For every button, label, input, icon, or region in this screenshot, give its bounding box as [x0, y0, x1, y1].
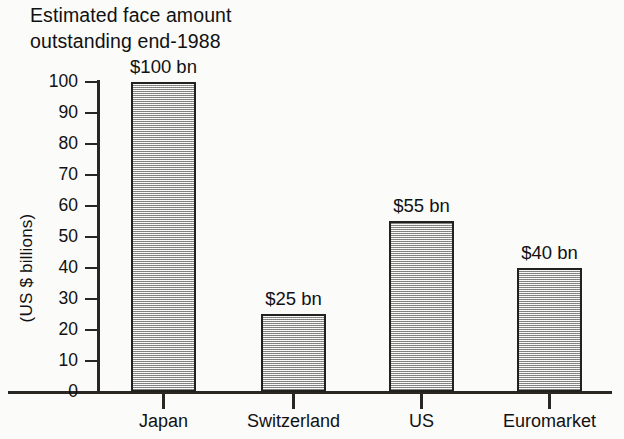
y-tick-mark — [85, 112, 98, 114]
plot-area: 0102030405060708090100 JapanSwitzerlandU… — [0, 0, 624, 439]
y-tick-label: 100 — [18, 73, 78, 91]
y-tick-label-text: 90 — [18, 104, 78, 122]
y-tick-label-text: 100 — [18, 73, 78, 91]
bar-chart: Estimated face amount outstanding end-19… — [0, 0, 624, 439]
y-tick-mark — [85, 360, 98, 362]
bar-japan — [131, 82, 196, 392]
y-tick-mark — [85, 236, 98, 238]
bar-value-label-switzerland: $25 bn — [234, 289, 354, 309]
y-tick-mark — [85, 205, 98, 207]
y-tick-label: 20 — [18, 321, 78, 339]
y-tick-label: 50 — [18, 228, 78, 246]
y-tick-label: 70 — [18, 166, 78, 184]
x-tick-mark — [548, 393, 551, 409]
y-tick-label: 30 — [18, 290, 78, 308]
y-tick-mark — [85, 81, 98, 83]
y-tick-label-text: 20 — [18, 321, 78, 339]
y-tick-label: 40 — [18, 259, 78, 277]
y-tick-label: 60 — [18, 197, 78, 215]
bar-euromarket — [517, 268, 582, 392]
y-tick-mark — [85, 174, 98, 176]
y-tick-mark — [85, 298, 98, 300]
y-tick-mark — [85, 391, 98, 393]
y-tick-label-text: 70 — [18, 166, 78, 184]
bar-value-label-japan: $100 bn — [104, 57, 224, 77]
y-tick-mark — [85, 329, 98, 331]
x-tick-label-euromarket: Euromarket — [470, 411, 624, 431]
bar-value-label-euromarket: $40 bn — [490, 243, 610, 263]
bar-value-label-us: $55 bn — [362, 196, 482, 216]
y-tick-label: 90 — [18, 104, 78, 122]
y-tick-mark — [85, 143, 98, 145]
y-tick-label-text: 30 — [18, 290, 78, 308]
y-tick-label-text: 50 — [18, 228, 78, 246]
y-tick-label-text: 60 — [18, 197, 78, 215]
y-tick-label: 80 — [18, 135, 78, 153]
y-tick-label-text: 10 — [18, 352, 78, 370]
x-tick-mark — [420, 393, 423, 409]
x-tick-mark — [162, 393, 165, 409]
y-tick-label-text: 80 — [18, 135, 78, 153]
y-tick-mark — [85, 267, 98, 269]
y-tick-label-text: 0 — [18, 383, 78, 401]
y-tick-label-text: 40 — [18, 259, 78, 277]
x-tick-mark — [292, 393, 295, 409]
y-tick-label: 0 — [18, 383, 78, 401]
bar-switzerland — [261, 314, 326, 392]
y-tick-label: 10 — [18, 352, 78, 370]
bar-us — [389, 221, 454, 392]
